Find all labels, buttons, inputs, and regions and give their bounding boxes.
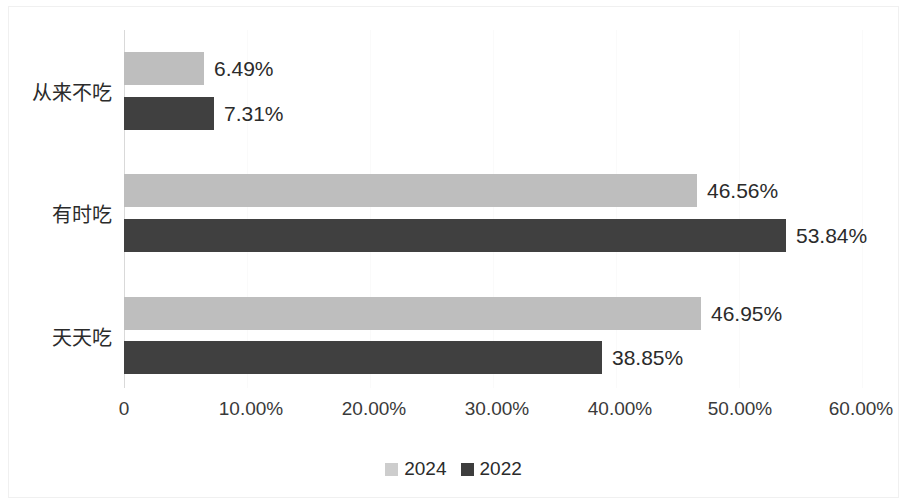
x-tick-label-2: 20.00%	[342, 398, 406, 420]
gridline-20	[370, 30, 371, 388]
bar-2022-sometimes	[124, 219, 786, 252]
bar-2024-daily	[124, 297, 701, 330]
chart-legend: 2024 2022	[0, 458, 907, 480]
bar-value-label-2024-never: 6.49%	[214, 52, 274, 85]
legend-swatch-icon-2024	[385, 463, 398, 476]
legend-item-2022[interactable]: 2022	[461, 458, 522, 480]
bar-2022-never	[124, 97, 214, 130]
bar-value-label-2022-never: 7.31%	[224, 97, 284, 130]
category-label-0: 从来不吃	[0, 77, 112, 105]
legend-swatch-icon-2022	[461, 463, 474, 476]
legend-label-2024: 2024	[404, 458, 446, 480]
x-tick-label-6: 60.00%	[829, 398, 893, 420]
legend-item-2024[interactable]: 2024	[385, 458, 446, 480]
bar-2022-daily	[124, 341, 602, 374]
legend-label-2022: 2022	[480, 458, 522, 480]
bar-chart: 从来不吃 6.49% 7.31% 有时吃 46.56% 53.84% 天天吃 4…	[0, 0, 907, 504]
x-tick-label-1: 10.00%	[219, 398, 283, 420]
bar-value-label-2024-daily: 46.95%	[711, 297, 782, 330]
category-label-2: 天天吃	[0, 322, 112, 350]
x-tick-label-0: 0	[119, 398, 130, 420]
category-label-text: 从来不吃	[32, 77, 112, 106]
gridline-60	[862, 30, 863, 388]
bar-value-label-2024-sometimes: 46.56%	[707, 174, 778, 207]
gridline-40	[616, 30, 617, 388]
x-tick-label-4: 40.00%	[588, 398, 652, 420]
gridline-30	[493, 30, 494, 388]
bar-value-label-2022-daily: 38.85%	[612, 341, 683, 374]
category-label-1: 有时吃	[0, 199, 112, 227]
bar-value-label-2022-sometimes: 53.84%	[796, 219, 867, 252]
bar-2024-never	[124, 52, 204, 85]
category-label-text: 天天吃	[52, 322, 112, 351]
bar-2024-sometimes	[124, 174, 697, 207]
category-label-text: 有时吃	[52, 199, 112, 228]
x-tick-label-3: 30.00%	[465, 398, 529, 420]
gridline-50	[739, 30, 740, 388]
x-tick-label-5: 50.00%	[708, 398, 772, 420]
